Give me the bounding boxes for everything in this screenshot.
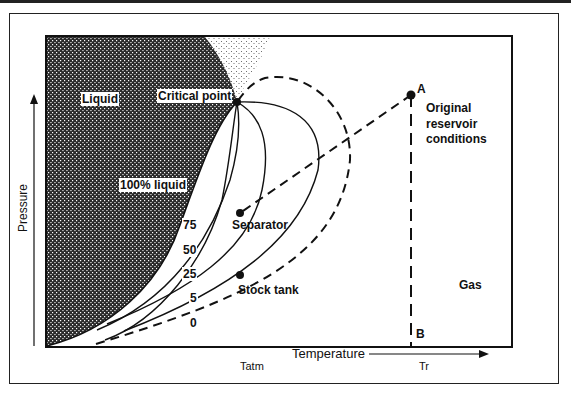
quality-label-25: 25: [182, 267, 197, 281]
liquid-region-label: Liquid: [81, 92, 119, 106]
quality-label-50: 50: [182, 243, 197, 257]
y-axis-label: Pressure: [16, 184, 30, 232]
point-b-label: B: [416, 327, 425, 341]
quality-label-75: 75: [182, 218, 197, 232]
point-a-label: A: [417, 82, 426, 96]
original-conditions-line3: conditions: [426, 132, 487, 146]
quality-label-0: 0: [189, 316, 198, 330]
critical-point-label: Critical point: [157, 89, 232, 103]
point-a-marker: [407, 91, 416, 100]
x-tick-tr: Tr: [419, 360, 429, 372]
separator-label: Separator: [232, 218, 288, 232]
path-a-to-separator: [243, 95, 411, 211]
stock-tank-marker: [236, 271, 244, 279]
phase-diagram: [0, 0, 571, 394]
critical-point-marker: [233, 98, 241, 106]
y-axis-arrow-icon: [30, 94, 38, 104]
quality-label-5: 5: [189, 291, 198, 305]
stock-tank-label: Stock tank: [238, 283, 299, 297]
x-tick-tatm: Tatm: [240, 360, 264, 372]
original-conditions-line1: Original: [426, 101, 471, 115]
x-axis-arrow-icon: [479, 350, 489, 358]
bubble-point-label: 100% liquid: [119, 178, 187, 192]
x-axis-label: Temperature: [292, 346, 365, 361]
original-conditions-line2: reservoir: [426, 117, 477, 131]
separator-marker: [236, 209, 244, 217]
gas-region-label: Gas: [459, 278, 482, 292]
